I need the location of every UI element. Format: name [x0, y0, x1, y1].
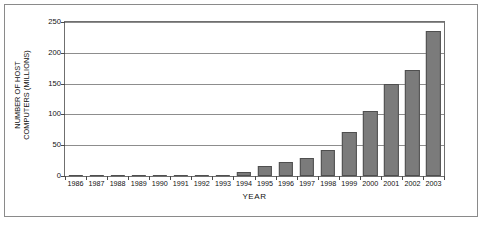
x-tick-label: 2000 — [362, 179, 378, 188]
chart-page: NUMBER OF HOST COMPUTERS (MILLIONS) 0501… — [0, 0, 486, 225]
bar — [426, 31, 440, 176]
bar-slot — [276, 22, 297, 176]
x-tick-label: 1992 — [194, 179, 210, 188]
x-tick-label: 1997 — [299, 179, 315, 188]
bar-slot — [318, 22, 339, 176]
y-axis-tick-labels: 050100150200250 — [36, 14, 61, 176]
bar — [300, 158, 314, 176]
bar — [342, 132, 356, 176]
x-tick-label: 2003 — [425, 179, 441, 188]
bar-slot — [233, 22, 254, 176]
x-tick-label: 1990 — [152, 179, 168, 188]
x-tick-label: 1995 — [257, 179, 273, 188]
bar-slot — [86, 22, 107, 176]
x-tick-label: 1994 — [236, 179, 252, 188]
bar — [363, 111, 377, 176]
bar-series — [65, 22, 444, 176]
x-tick-label: 1987 — [89, 179, 105, 188]
y-tick-label: 250 — [36, 17, 61, 26]
bar — [216, 175, 230, 176]
bar-slot — [381, 22, 402, 176]
bar-slot — [212, 22, 233, 176]
bar — [237, 172, 251, 176]
y-tick-label: 100 — [36, 109, 61, 118]
x-tick-label: 1986 — [68, 179, 84, 188]
bar-slot — [191, 22, 212, 176]
bar — [153, 175, 167, 176]
y-tick-label: 0 — [36, 171, 61, 180]
y-axis-title: NUMBER OF HOST COMPUTERS (MILLIONS) — [7, 14, 37, 176]
x-tick-label: 1989 — [131, 179, 147, 188]
y-tick-label: 150 — [36, 78, 61, 87]
x-tick-label: 1998 — [320, 179, 336, 188]
bar-slot — [149, 22, 170, 176]
x-tick-label: 1988 — [110, 179, 126, 188]
x-tick-label: 2001 — [383, 179, 399, 188]
bar-slot — [402, 22, 423, 176]
bar-slot — [360, 22, 381, 176]
bar-slot — [423, 22, 444, 176]
bar — [405, 70, 419, 176]
bar — [132, 175, 146, 176]
bar-slot — [170, 22, 191, 176]
bar-slot — [339, 22, 360, 176]
bar-slot — [128, 22, 149, 176]
y-tick-label: 200 — [36, 47, 61, 56]
x-tick-label: 1993 — [215, 179, 231, 188]
x-axis-title: YEAR — [64, 192, 445, 201]
bar — [279, 162, 293, 176]
bar — [258, 166, 272, 176]
bar-slot — [297, 22, 318, 176]
x-tick-label: 1999 — [341, 179, 357, 188]
x-tick-label: 1996 — [278, 179, 294, 188]
y-tick-label: 50 — [36, 140, 61, 149]
y-axis-title-line-2: COMPUTERS (MILLIONS) — [22, 50, 31, 140]
y-axis-title-line-1: NUMBER OF HOST — [13, 50, 22, 140]
bar-slot — [65, 22, 86, 176]
x-axis-tick-labels: 1986198719881989199019911992199319941995… — [64, 179, 445, 191]
x-tick-label: 1991 — [173, 179, 189, 188]
bar — [321, 150, 335, 176]
plot-area — [64, 21, 445, 177]
bar-slot — [107, 22, 128, 176]
bar — [384, 84, 398, 176]
bar — [195, 175, 209, 176]
bar — [110, 175, 124, 176]
x-tick-label: 2002 — [404, 179, 420, 188]
bar — [89, 175, 103, 176]
bar — [174, 175, 188, 176]
bar — [68, 175, 82, 176]
bar-slot — [255, 22, 276, 176]
